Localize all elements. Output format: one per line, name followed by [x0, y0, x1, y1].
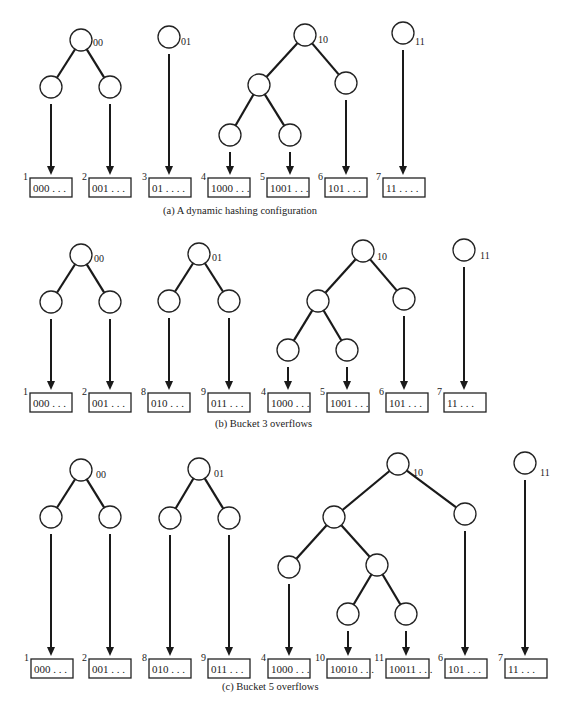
root-label: 11: [415, 36, 425, 47]
bucket: 010 . . .8: [142, 652, 191, 678]
tree-edge: [341, 525, 369, 557]
bucket-number: 5: [260, 171, 265, 182]
arrow-head-icon: [47, 166, 55, 175]
arrow-head-icon: [344, 647, 352, 656]
bucket-prefix: 010 . . .: [152, 663, 185, 675]
arrow-head-icon: [225, 381, 233, 390]
bucket-number: 2: [82, 171, 87, 182]
root-node: [352, 240, 374, 262]
tree-edge: [57, 49, 75, 77]
tree-edge: [57, 479, 75, 507]
bucket-number: 11: [374, 652, 384, 663]
bucket: 101 . . .6: [438, 652, 487, 678]
panel-caption: (c) Bucket 5 overflows: [222, 681, 319, 693]
root-node: [392, 22, 414, 44]
arrow-head-icon: [226, 166, 234, 175]
tree-edge: [296, 525, 326, 559]
tree-node: [99, 76, 121, 98]
tree-edge: [354, 574, 372, 604]
tree-node: [393, 288, 415, 310]
tree-node: [336, 339, 358, 361]
tree-node: [99, 506, 121, 528]
tree-edge: [342, 471, 389, 510]
arrow-head-icon: [342, 166, 350, 175]
bucket: 11 . . . .7: [376, 171, 425, 197]
bucket-prefix: 101 . . .: [448, 663, 481, 675]
tree-11: 1111 . . .7: [437, 239, 490, 412]
bucket: 001 . . .2: [82, 652, 131, 678]
tree-00: 00000 . . .1001 . . .2: [23, 244, 131, 412]
bucket-number: 9: [201, 652, 206, 663]
bucket-number: 7: [376, 171, 381, 182]
bucket-prefix: 1000 . . .: [271, 663, 310, 675]
tree-edge: [324, 310, 342, 340]
root-node: [70, 244, 92, 266]
bucket-prefix: 000 . . .: [33, 397, 66, 409]
tree-edge: [266, 43, 297, 77]
bucket-prefix: 001 . . .: [92, 663, 125, 675]
tree-node: [40, 76, 62, 98]
tree-edge: [236, 95, 254, 126]
root-label: 10: [318, 34, 328, 45]
bucket-prefix: 001 . . .: [92, 397, 125, 409]
root-node: [188, 243, 210, 265]
bucket: 1000 . . .4: [261, 386, 310, 412]
bucket-number: 10: [315, 652, 325, 663]
bucket-prefix: 000 . . .: [33, 182, 66, 194]
panel-a: 00000 . . .1001 . . .20101 . . . .310100…: [23, 22, 425, 217]
panel-caption: (a) A dynamic hashing configuration: [163, 205, 318, 217]
tree-node: [218, 507, 240, 529]
arrow-head-icon: [106, 166, 114, 175]
bucket: 11 . . .7: [498, 652, 547, 678]
arrow-head-icon: [47, 381, 55, 390]
arrow-head-icon: [521, 647, 529, 656]
arrow-head-icon: [460, 381, 468, 390]
tree-node: [395, 603, 417, 625]
bucket-prefix: 10010 . . .: [330, 663, 374, 675]
bucket: 11 . . .7: [437, 386, 486, 412]
arrow-head-icon: [343, 381, 351, 390]
bucket: 10011 . . .11: [374, 652, 432, 678]
tree-node: [248, 74, 270, 96]
panel-b: 00000 . . .1001 . . .201010 . . .8011 . …: [23, 239, 490, 430]
bucket: 000 . . .1: [23, 386, 72, 412]
tree-node: [158, 290, 180, 312]
tree-00: 00000 . . .1001 . . .2: [24, 459, 131, 678]
bucket-number: 1: [24, 652, 29, 663]
bucket: 1000 . . .4: [261, 652, 310, 678]
arrow-head-icon: [284, 381, 292, 390]
bucket-prefix: 101 . . .: [389, 397, 422, 409]
bucket-prefix: 101 . . .: [328, 182, 361, 194]
bucket-number: 7: [498, 652, 503, 663]
bucket-prefix: 010 . . .: [151, 397, 184, 409]
tree-node: [335, 72, 357, 94]
tree-10: 101000 . . .41001 . . .5101 . . .6: [261, 240, 428, 412]
bucket-number: 5: [320, 386, 325, 397]
bucket: 011 . . .9: [201, 652, 250, 678]
root-node: [294, 24, 316, 46]
bucket-number: 4: [201, 171, 206, 182]
arrow-head-icon: [461, 647, 469, 656]
tree-edge: [175, 263, 193, 291]
dynamic-hashing-diagram: 00000 . . .1001 . . .20101 . . . .310100…: [0, 0, 575, 708]
tree-edge: [87, 264, 104, 292]
tree-node: [337, 603, 359, 625]
tree-node: [278, 556, 300, 578]
bucket-number: 3: [142, 171, 147, 182]
bucket-prefix: 11 . . . .: [386, 182, 419, 194]
arrow-head-icon: [225, 647, 233, 656]
tree-node: [99, 291, 121, 313]
arrow-head-icon: [402, 647, 410, 656]
tree-node: [279, 124, 301, 146]
tree-edge: [205, 478, 224, 508]
root-label: 00: [94, 253, 104, 264]
bucket-prefix: 10011 . . .: [389, 663, 433, 675]
root-label: 11: [480, 250, 490, 261]
root-node: [70, 29, 92, 51]
bucket-number: 2: [82, 652, 87, 663]
root-label: 01: [212, 252, 222, 263]
bucket-prefix: 11 . . .: [447, 397, 474, 409]
bucket-prefix: 1001 . . .: [330, 397, 369, 409]
tree-node: [454, 503, 476, 525]
bucket-prefix: 011 . . .: [211, 397, 244, 409]
